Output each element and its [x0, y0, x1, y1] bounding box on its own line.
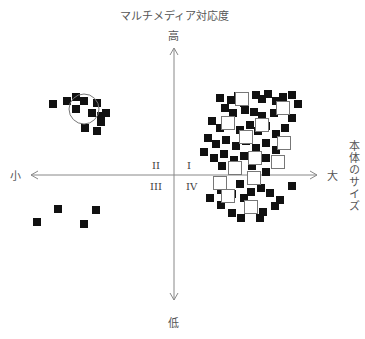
- data-point: [206, 194, 214, 202]
- data-point: [214, 177, 227, 190]
- data-point: [256, 214, 264, 222]
- x-small-label: 小: [10, 167, 21, 183]
- data-point: [210, 154, 218, 162]
- x-axis-title: 本体のサイズ: [345, 140, 361, 212]
- data-point: [97, 118, 105, 126]
- data-point: [93, 99, 101, 107]
- axes: [31, 48, 317, 300]
- y-low-label: 低: [168, 314, 179, 330]
- positioning-diagram: マルチメディア対応度 高 低 小 大 本体のサイズ II I III IV: [0, 0, 365, 339]
- scatter-plot: [0, 0, 365, 339]
- data-point: [102, 109, 110, 117]
- data-point: [33, 218, 41, 226]
- y-axis-title: マルチメディア対応度: [120, 7, 229, 23]
- data-point: [88, 109, 96, 117]
- data-point: [249, 152, 262, 165]
- data-point: [80, 220, 88, 228]
- data-point: [262, 168, 270, 176]
- data-point: [216, 94, 224, 102]
- quadrant-4-label: IV: [186, 181, 197, 192]
- data-point: [236, 93, 249, 106]
- data-point: [288, 91, 296, 99]
- data-point: [221, 104, 229, 112]
- data-point: [281, 124, 289, 132]
- data-points: [33, 90, 302, 228]
- data-point: [212, 140, 220, 148]
- data-point: [278, 137, 291, 150]
- data-point: [218, 162, 226, 170]
- data-point: [262, 154, 270, 162]
- data-point: [232, 142, 240, 150]
- data-point: [246, 121, 254, 129]
- quadrant-1-label: I: [187, 160, 191, 171]
- data-point: [288, 114, 296, 122]
- data-point: [241, 106, 249, 114]
- data-point: [240, 131, 253, 144]
- data-point: [250, 108, 258, 116]
- data-point: [264, 90, 272, 98]
- data-point: [227, 96, 235, 104]
- data-point: [288, 182, 296, 190]
- data-point: [92, 206, 100, 214]
- quadrant-2-label: II: [152, 160, 160, 171]
- data-point: [256, 119, 269, 132]
- data-point: [222, 190, 235, 203]
- data-point: [294, 100, 302, 108]
- data-point: [272, 156, 285, 169]
- data-point: [49, 100, 57, 108]
- data-point: [236, 180, 244, 188]
- data-point: [228, 209, 236, 217]
- data-point: [222, 136, 230, 144]
- data-point: [229, 109, 237, 117]
- data-point: [245, 201, 258, 214]
- data-point: [222, 117, 235, 130]
- data-point: [279, 93, 287, 101]
- data-point: [248, 172, 261, 185]
- data-point: [220, 150, 228, 158]
- data-point: [271, 202, 279, 210]
- data-point: [72, 105, 80, 113]
- data-point: [81, 124, 89, 132]
- y-high-label: 高: [168, 27, 179, 43]
- data-point: [247, 188, 255, 196]
- data-point: [257, 184, 265, 192]
- data-point: [277, 102, 290, 115]
- data-point: [240, 152, 248, 160]
- data-point: [252, 144, 260, 152]
- data-point: [93, 127, 101, 135]
- data-point: [54, 205, 62, 213]
- data-point: [200, 148, 208, 156]
- data-point: [80, 97, 88, 105]
- data-point: [72, 93, 80, 101]
- data-point: [266, 189, 274, 197]
- data-point: [262, 139, 270, 147]
- data-point: [237, 214, 245, 222]
- data-point: [204, 134, 212, 142]
- data-point: [208, 117, 216, 125]
- quadrant-3-label: III: [150, 181, 162, 192]
- data-point: [229, 162, 242, 175]
- x-large-label: 大: [327, 167, 338, 183]
